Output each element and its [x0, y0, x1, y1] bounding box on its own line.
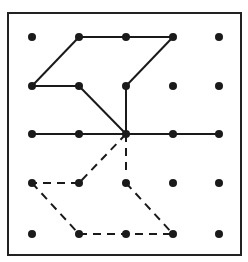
grid-dot: [215, 130, 223, 138]
grid-dot: [28, 33, 36, 41]
grid-dot: [122, 82, 130, 90]
grid-dot: [169, 33, 177, 41]
grid-dot: [122, 179, 130, 187]
grid-dot: [75, 33, 83, 41]
grid-dot: [75, 179, 83, 187]
grid-dot: [215, 82, 223, 90]
grid-dot: [28, 130, 36, 138]
grid-dot: [75, 130, 83, 138]
grid-dot: [75, 82, 83, 90]
grid-dot: [28, 82, 36, 90]
grid-dot: [215, 230, 223, 238]
grid-dot: [28, 230, 36, 238]
grid-dot: [169, 179, 177, 187]
grid-dot: [215, 33, 223, 41]
grid-dot: [122, 130, 130, 138]
grid-dot: [122, 33, 130, 41]
grid-dot: [28, 179, 36, 187]
grid-dot: [169, 130, 177, 138]
grid-dot: [75, 230, 83, 238]
grid-dot: [215, 179, 223, 187]
grid-dot: [169, 82, 177, 90]
grid-dot: [169, 230, 177, 238]
grid-dot: [122, 230, 130, 238]
dot-grid-diagram: [0, 0, 248, 262]
